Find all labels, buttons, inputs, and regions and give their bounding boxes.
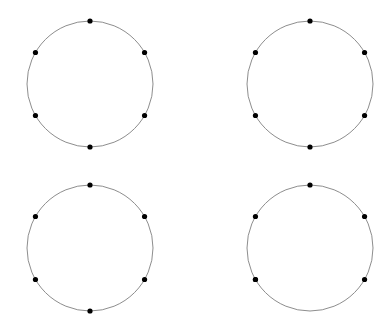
data-point [253, 277, 258, 282]
data-point [362, 113, 367, 118]
figure-canvas [0, 0, 391, 333]
data-point [33, 277, 38, 282]
data-point [142, 277, 147, 282]
data-point [87, 308, 92, 313]
data-point [87, 18, 92, 23]
data-point [362, 50, 367, 55]
data-point [33, 214, 38, 219]
data-point [253, 214, 258, 219]
data-point [362, 277, 367, 282]
data-point [142, 50, 147, 55]
data-point [362, 214, 367, 219]
data-point [307, 182, 312, 187]
data-point [253, 50, 258, 55]
data-point [33, 113, 38, 118]
figure-background [0, 0, 391, 333]
data-point [33, 50, 38, 55]
data-point [142, 113, 147, 118]
data-point [307, 18, 312, 23]
data-point [87, 182, 92, 187]
data-point [307, 144, 312, 149]
data-point [253, 113, 258, 118]
data-point [142, 214, 147, 219]
data-point [87, 144, 92, 149]
